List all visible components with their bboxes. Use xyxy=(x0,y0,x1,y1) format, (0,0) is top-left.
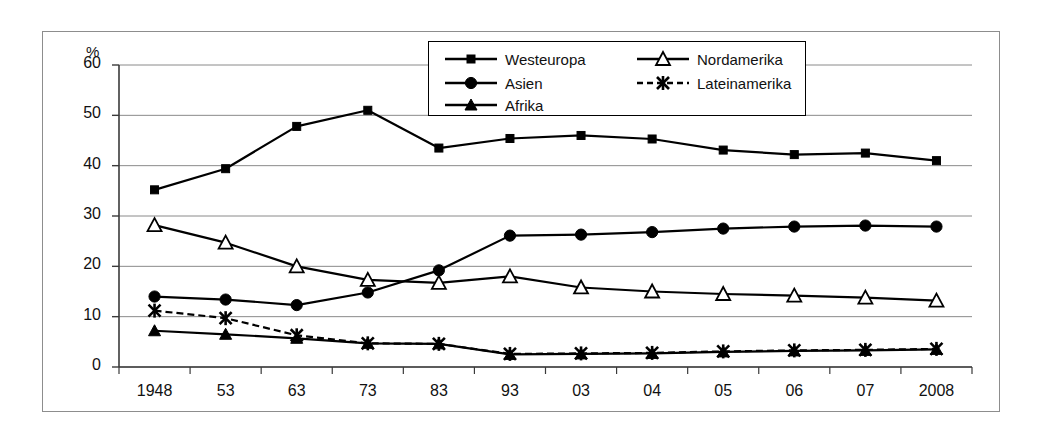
legend-marker-afrika-icon xyxy=(443,95,499,115)
legend-marker-lateinamerika-icon xyxy=(635,73,691,93)
data-point-westeuropa-03 xyxy=(577,131,585,139)
series-line-asien xyxy=(155,226,937,306)
legend-entry-lateinamerika[interactable]: Lateinamerika xyxy=(635,72,791,94)
legend-entry-westeuropa[interactable]: Westeuropa xyxy=(443,48,586,70)
data-point-westeuropa-53 xyxy=(222,165,230,173)
legend-entry-nordamerika[interactable]: Nordamerika xyxy=(635,48,783,70)
data-point-westeuropa-83 xyxy=(435,144,443,152)
data-point-asien-07 xyxy=(860,220,871,231)
data-point-asien-06 xyxy=(789,221,800,232)
legend-marker-asien-icon xyxy=(443,73,499,93)
data-point-westeuropa-73 xyxy=(364,106,372,114)
data-point-asien-93 xyxy=(504,230,515,241)
data-point-westeuropa-04 xyxy=(648,135,656,143)
data-point-westeuropa-1948 xyxy=(151,186,159,194)
data-point-asien-73 xyxy=(362,287,373,298)
legend-marker-westeuropa-icon xyxy=(443,49,499,69)
data-point-asien-53 xyxy=(220,294,231,305)
legend-marker-nordamerika-icon xyxy=(635,49,691,69)
data-point-asien-05 xyxy=(718,223,729,234)
data-point-asien-63 xyxy=(291,299,302,310)
series-line-nordamerika xyxy=(155,225,937,301)
legend-marker xyxy=(465,77,476,88)
series-line-westeuropa xyxy=(155,110,937,190)
series-line-afrika xyxy=(155,331,937,355)
series-lateinamerika xyxy=(149,304,943,361)
legend-label-lateinamerika: Lateinamerika xyxy=(697,75,791,92)
data-point-westeuropa-07 xyxy=(861,149,869,157)
series-afrika xyxy=(149,325,943,360)
legend-entry-asien[interactable]: Asien xyxy=(443,72,543,94)
legend-entry-afrika[interactable]: Afrika xyxy=(443,94,543,116)
data-point-westeuropa-2008 xyxy=(932,157,940,165)
legend-label-asien: Asien xyxy=(505,75,543,92)
series-nordamerika xyxy=(148,218,944,307)
data-point-nordamerika-1948 xyxy=(148,218,162,231)
chart-root: % 0102030405060 194853637383930304050607… xyxy=(0,0,1043,438)
chart-legend: WesteuropaNordamerikaAsienLateinamerikaA… xyxy=(428,41,806,116)
data-point-asien-2008 xyxy=(931,221,942,232)
legend-label-afrika: Afrika xyxy=(505,97,543,114)
legend-label-westeuropa: Westeuropa xyxy=(505,51,586,68)
data-point-westeuropa-05 xyxy=(719,146,727,154)
data-point-westeuropa-63 xyxy=(293,122,301,130)
legend-marker xyxy=(467,55,475,63)
data-point-westeuropa-06 xyxy=(790,151,798,159)
series-westeuropa xyxy=(151,106,941,194)
data-point-asien-03 xyxy=(575,229,586,240)
data-point-westeuropa-93 xyxy=(506,134,514,142)
data-point-asien-1948 xyxy=(149,291,160,302)
data-point-asien-04 xyxy=(647,227,658,238)
legend-label-nordamerika: Nordamerika xyxy=(697,51,783,68)
